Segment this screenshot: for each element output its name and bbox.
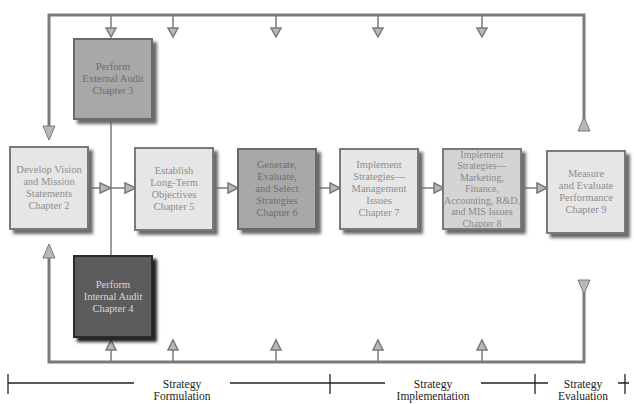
phase-evaluation: Strategy Evaluation [548, 378, 618, 402]
arrow-up-to-top-icon [578, 117, 590, 131]
box-measure-evaluate: Measure and Evaluate Performance Chapter… [546, 150, 626, 234]
box-vision-mission: Develop Vision and Mission Statements Ch… [9, 146, 89, 230]
box-label: Develop Vision and Mission Statements Ch… [16, 164, 81, 212]
box-long-term-objectives: Establish Long-Term Objectives Chapter 5 [134, 147, 214, 231]
bottom-feedback-arrows [106, 340, 487, 362]
box-label: Implement Strategies— Marketing, Finance… [444, 149, 520, 230]
box-external-audit: Perform External Audit Chapter 3 [73, 38, 153, 120]
top-feedback-arrows [106, 15, 487, 37]
box-label: Implement Strategies— Management Issues … [352, 159, 407, 219]
strategic-management-model-diagram: Perform External Audit Chapter 3 Develop… [0, 0, 634, 404]
box-implement-functional: Implement Strategies— Marketing, Finance… [442, 148, 522, 230]
phase-implementation: Strategy Implementation [385, 378, 481, 402]
phase-formulation: Strategy Formulation [134, 378, 230, 402]
box-label: Perform External Audit Chapter 3 [82, 61, 144, 97]
box-label: Measure and Evaluate Performance Chapter… [559, 168, 614, 216]
box-internal-audit: Perform Internal Audit Chapter 4 [73, 255, 153, 338]
arrow-down-to-vision-icon [43, 126, 55, 140]
box-label: Generate, Evaluate, and Select Strategie… [255, 159, 298, 219]
box-implement-management: Implement Strategies— Management Issues … [339, 148, 419, 230]
arrow-up-from-bottom-icon [43, 244, 55, 258]
box-label: Perform Internal Audit Chapter 4 [84, 279, 143, 315]
arrow-down-to-bottom-icon [578, 280, 590, 294]
box-generate-strategies: Generate, Evaluate, and Select Strategie… [237, 148, 317, 230]
box-label: Establish Long-Term Objectives Chapter 5 [150, 165, 198, 213]
phase-timeline [8, 374, 629, 394]
